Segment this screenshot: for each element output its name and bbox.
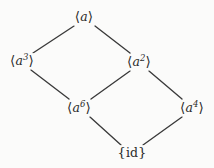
node-close-bracket: ⟩	[88, 8, 93, 24]
lattice-node-id: {id}	[115, 145, 149, 161]
subgroup-lattice-diagram: ⟨a⟩⟨a3⟩⟨a2⟩⟨a6⟩⟨a4⟩{id}	[0, 0, 214, 168]
node-generator: a	[72, 100, 80, 115]
node-generator: a	[185, 100, 193, 115]
lattice-node-a3: ⟨a3⟩	[8, 53, 36, 69]
edges-group	[31, 26, 182, 145]
node-open-bracket: {	[117, 144, 126, 160]
node-generator: a	[132, 54, 140, 69]
node-close-bracket: }	[138, 144, 147, 160]
lattice-node-a2: ⟨a2⟩	[125, 54, 153, 70]
node-generator: a	[15, 53, 23, 68]
lattice-node-a6: ⟨a6⟩	[65, 100, 93, 116]
lattice-node-a4: ⟨a4⟩	[178, 100, 206, 116]
lattice-edges-layer	[0, 0, 214, 168]
lattice-edge-a6-id	[90, 117, 121, 145]
node-close-bracket: ⟩	[199, 99, 204, 115]
lattice-node-a1: ⟨a⟩	[73, 9, 95, 25]
lattice-edge-a3-a6	[31, 70, 69, 99]
node-close-bracket: ⟩	[29, 52, 34, 68]
node-close-bracket: ⟩	[86, 99, 91, 115]
lattice-edge-a2-a4	[149, 71, 182, 99]
lattice-edge-a4-id	[143, 117, 182, 145]
lattice-edge-a1-a2	[95, 26, 130, 53]
node-close-bracket: ⟩	[146, 53, 151, 69]
node-generator: id	[126, 145, 138, 160]
lattice-edge-a1-a3	[33, 26, 74, 53]
node-generator: a	[80, 9, 88, 24]
lattice-edge-a2-a6	[91, 71, 130, 99]
